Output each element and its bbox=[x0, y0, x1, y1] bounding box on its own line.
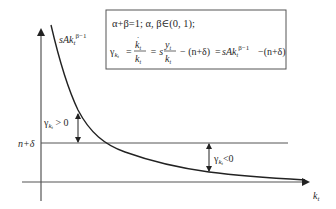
svg-text:−(n+δ): −(n+δ) bbox=[258, 46, 286, 58]
growth-rate-diagram: sAktβ−1 n+δ γkt > 0 γkt<0 kt α+β=1; α, β… bbox=[0, 0, 336, 209]
n-plus-delta-label: n+δ bbox=[18, 138, 35, 149]
curve-label: sAktβ−1 bbox=[59, 32, 87, 47]
negative-gamma-label: γkt<0 bbox=[213, 153, 234, 166]
svg-text:=: = bbox=[215, 46, 221, 57]
formula-line-1: α+β=1; α, β∈(0, 1); bbox=[112, 18, 195, 30]
svg-text:− (n+δ): − (n+δ) bbox=[180, 46, 210, 58]
svg-text:=: = bbox=[126, 46, 132, 57]
svg-text:= s: = s bbox=[150, 46, 163, 57]
positive-gamma-label: γkt > 0 bbox=[43, 117, 69, 130]
x-axis-label: kt bbox=[313, 190, 320, 203]
